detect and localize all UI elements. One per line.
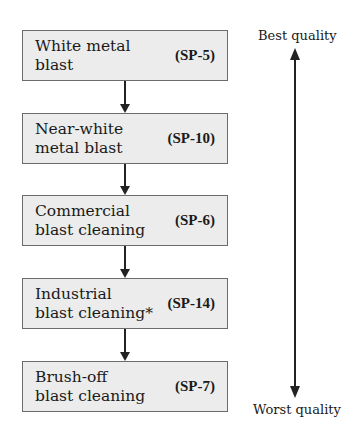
step-box-sp5: White metal blast (SP-5) <box>22 30 228 81</box>
step-box-sp7: Brush-off blast cleaning (SP-7) <box>22 361 228 412</box>
step-name: Industrial blast cleaning* <box>35 285 153 323</box>
step-box-sp14: Industrial blast cleaning* (SP-14) <box>22 278 228 329</box>
step-name: Brush-off blast cleaning <box>35 368 145 406</box>
step-code: (SP-6) <box>175 212 215 229</box>
quality-scale-line <box>294 58 296 390</box>
step-box-sp10: Near-white metal blast (SP-10) <box>22 113 228 164</box>
down-arrow-icon <box>124 329 126 359</box>
worst-quality-label: Worst quality <box>253 402 341 417</box>
down-arrow-icon <box>124 246 126 276</box>
step-code: (SP-7) <box>175 378 215 395</box>
step-name: White metal blast <box>35 37 131 75</box>
step-code: (SP-14) <box>168 295 216 312</box>
best-quality-label: Best quality <box>258 28 337 43</box>
step-box-sp6: Commercial blast cleaning (SP-6) <box>22 195 228 246</box>
step-code: (SP-10) <box>168 130 216 147</box>
step-name: Commercial blast cleaning <box>35 202 145 240</box>
arrow-down-icon <box>290 386 300 398</box>
down-arrow-icon <box>124 81 126 111</box>
step-code: (SP-5) <box>175 47 215 64</box>
down-arrow-icon <box>124 164 126 193</box>
step-name: Near-white metal blast <box>35 120 123 158</box>
